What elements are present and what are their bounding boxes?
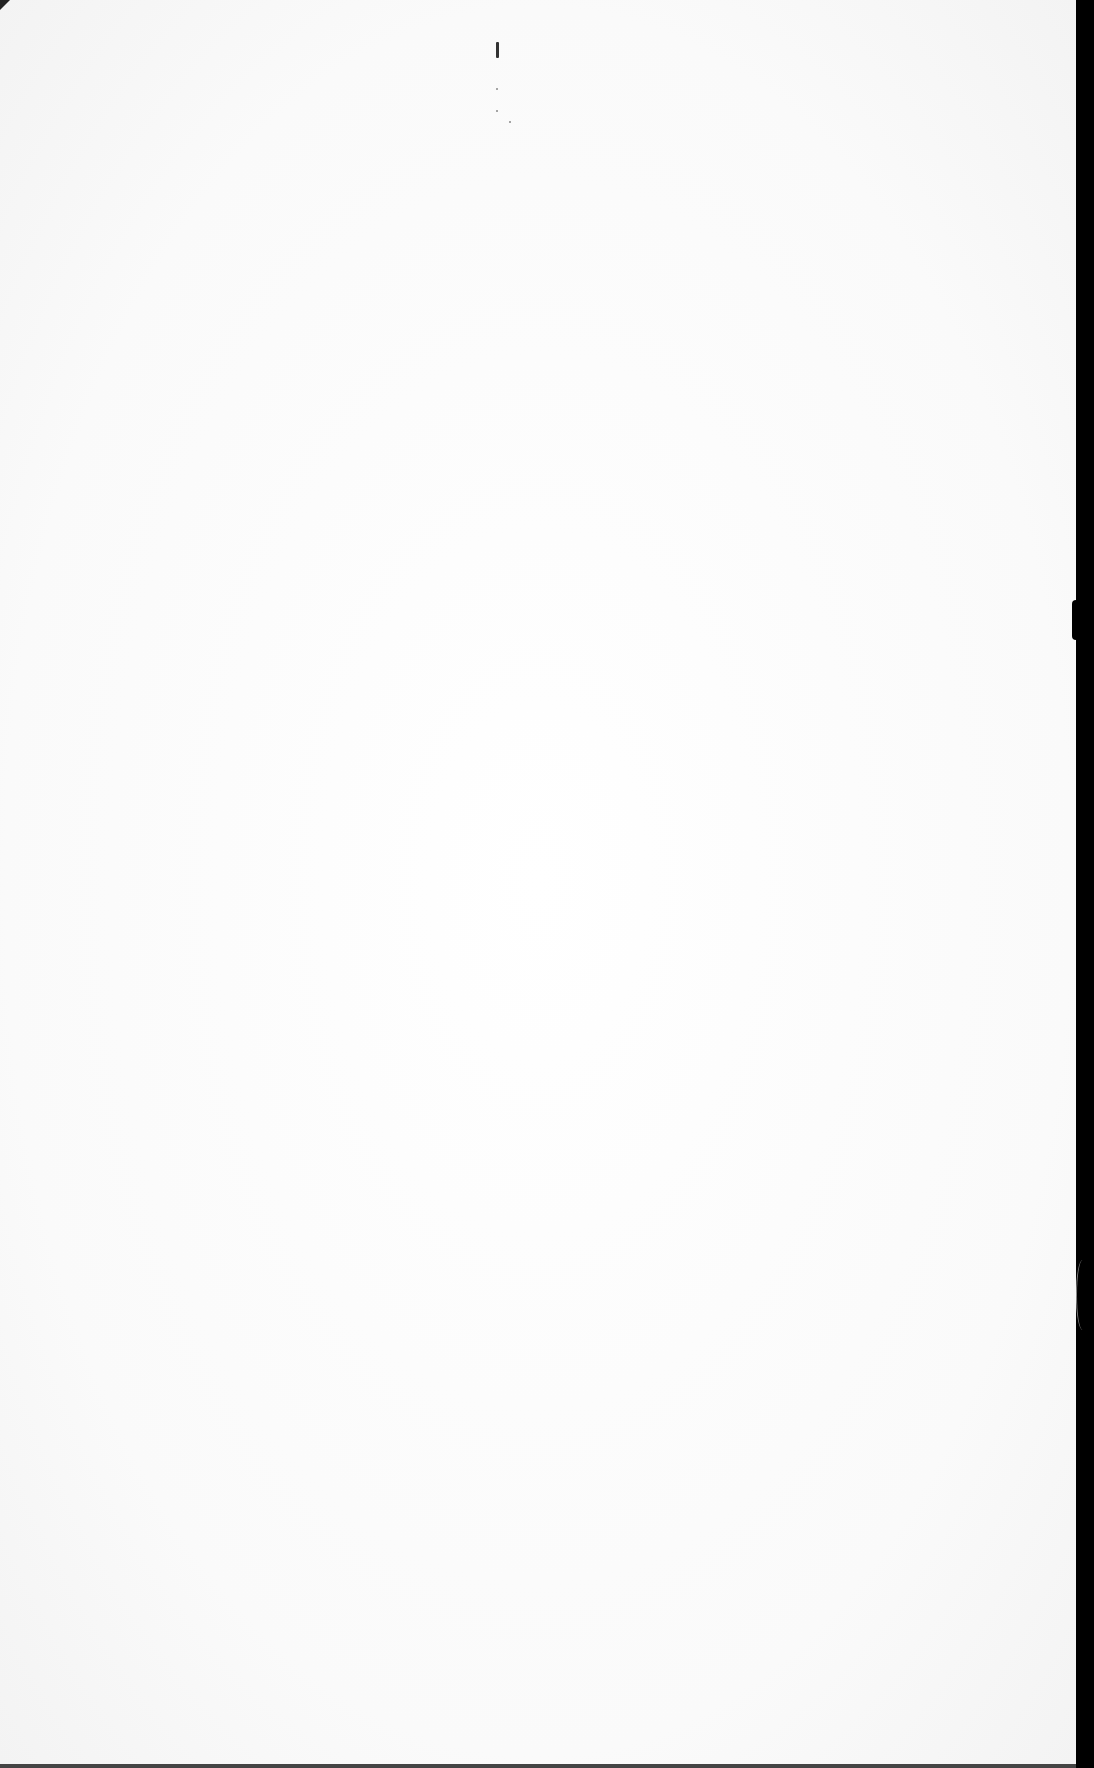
scan-border-bottom bbox=[0, 1764, 1076, 1768]
folded-corner bbox=[0, 0, 10, 10]
speck bbox=[509, 121, 511, 123]
blank-page bbox=[0, 0, 1076, 1764]
page-edge-tear bbox=[1072, 600, 1080, 640]
ink-mark bbox=[496, 42, 499, 58]
speck bbox=[496, 88, 498, 90]
page-edge-curl bbox=[1076, 1260, 1089, 1330]
speck bbox=[496, 110, 498, 112]
